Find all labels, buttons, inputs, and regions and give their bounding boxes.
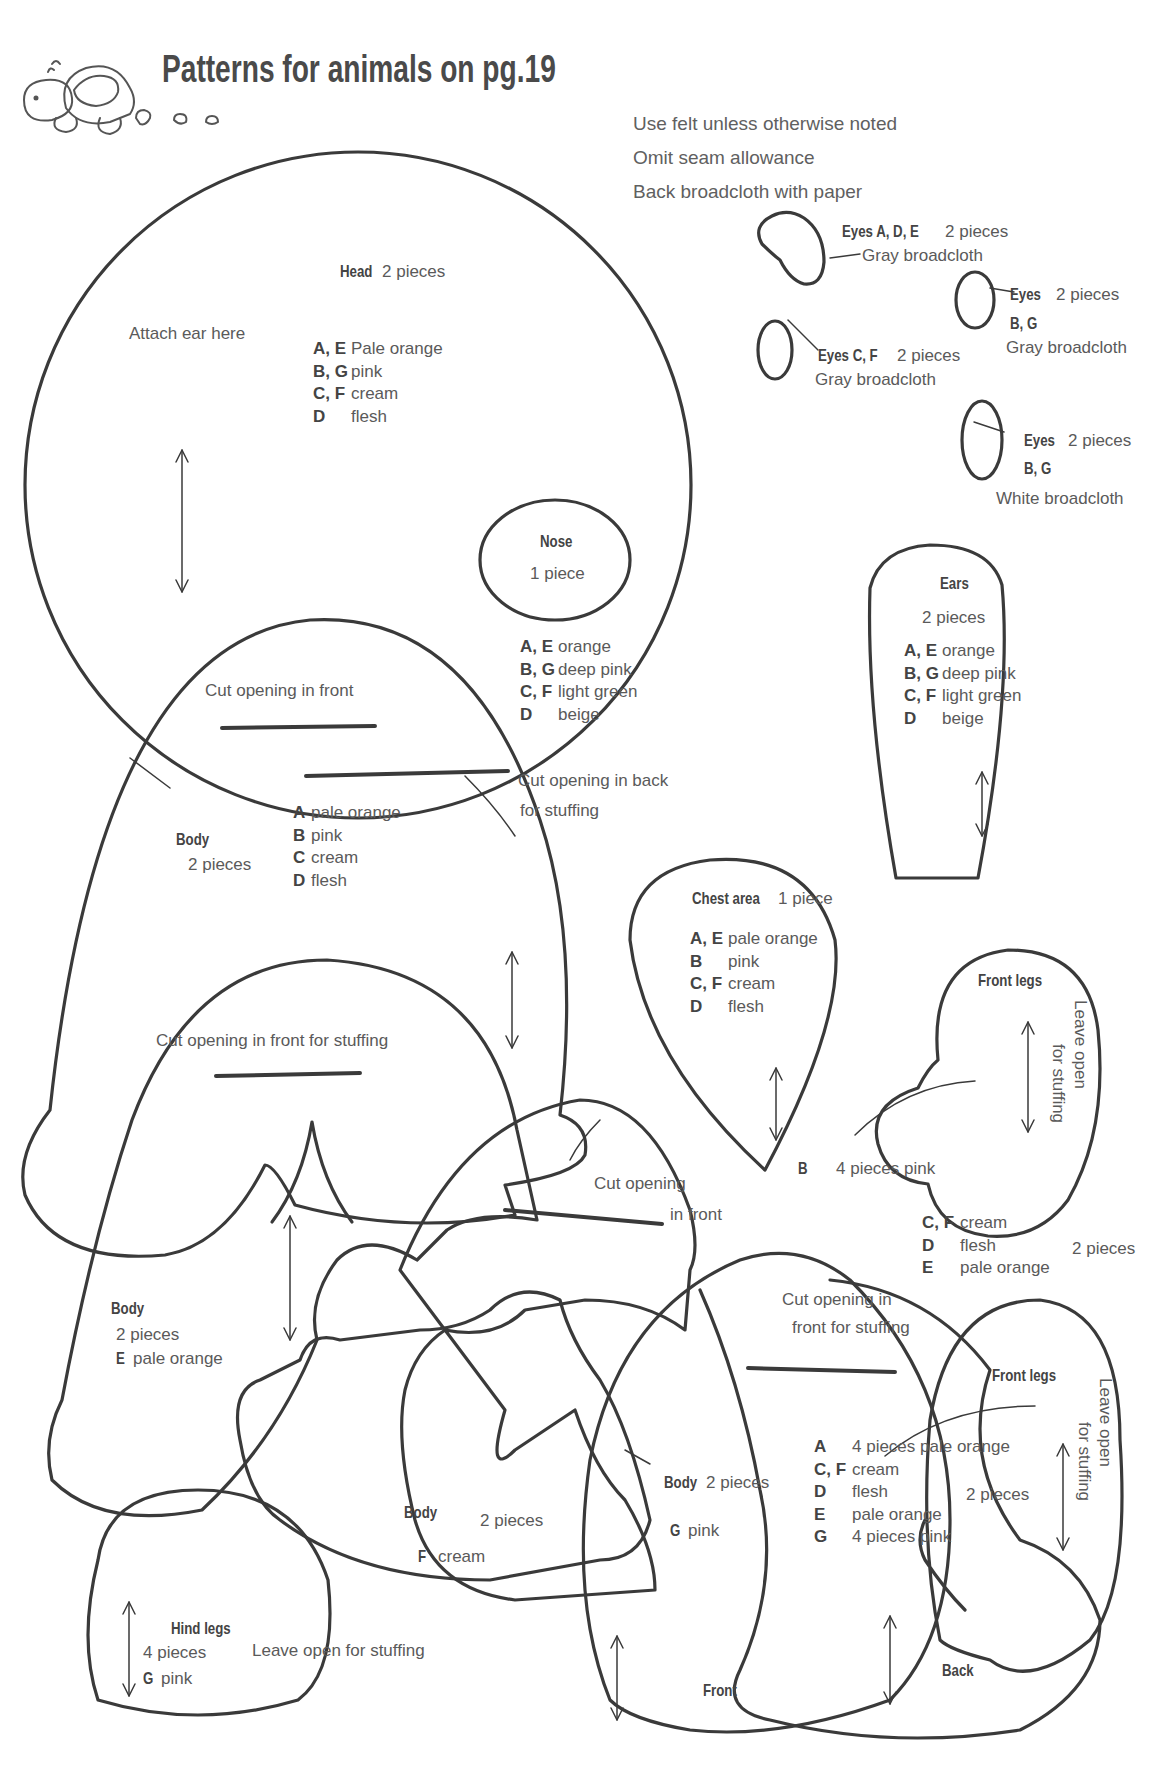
body-e-count: 2 pieces [116, 1324, 179, 1346]
front-legs-1-leave-open-1: Leave open [1068, 1000, 1092, 1089]
chest-title: Chest area [692, 888, 760, 910]
chest-color-list: A, Epale orange Bpink C, Fcream Dflesh [690, 928, 818, 1018]
nose-title: Nose [540, 531, 572, 553]
front-legs-1-leave-open-2: for stuffing [1046, 1044, 1070, 1123]
body-f-count: 2 pieces [480, 1510, 543, 1532]
body-abcd-cut-back-2: for stuffing [520, 800, 599, 822]
note-seam: Omit seam allowance [633, 147, 815, 169]
eyes-cf-count: 2 pieces [897, 345, 960, 367]
body-g-front-label: Front [703, 1680, 737, 1702]
front-legs-2-leave-open-2: for stuffing [1072, 1422, 1096, 1501]
body-f-color: cream [438, 1546, 485, 1568]
ears-color-list: A, Eorange B, Gdeep pink C, Flight green… [904, 640, 1021, 730]
front-legs-1-bracket-count: 2 pieces [1072, 1238, 1135, 1260]
hind-legs-count: 4 pieces [143, 1642, 206, 1664]
front-legs-1-color-list: C, Fcream Dflesh Epale orange [922, 1212, 1050, 1280]
chest-count: 1 piece [778, 888, 833, 910]
page-title: Patterns for animals on pg.19 [162, 48, 556, 91]
body-abcd-color-list: Apale orange Bpink Ccream Dflesh [293, 802, 401, 892]
body-g-cut-note-1: Cut opening in [782, 1289, 892, 1311]
ears-title: Ears [940, 573, 969, 595]
eyes-ade-material: Gray broadcloth [862, 245, 983, 267]
hind-legs-leave-open: Leave open for stuffing [252, 1640, 425, 1662]
body-e-cut-note: Cut opening in front for stuffing [156, 1030, 388, 1052]
eyes-bg-gray-material: Gray broadcloth [1006, 337, 1127, 359]
body-e-dart [272, 1122, 352, 1222]
eye-cf-pattern [758, 321, 792, 379]
body-abcd-count: 2 pieces [188, 854, 251, 876]
front-legs-1-b-text: 4 pieces pink [836, 1158, 935, 1180]
front-legs-2-leave-open-1: Leave open [1093, 1378, 1117, 1467]
hind-legs-pattern [88, 1490, 330, 1715]
eyes-bg-white-material: White broadcloth [996, 488, 1124, 510]
body-g-key: G [670, 1520, 680, 1542]
eyes-bg-white-title: Eyes [1024, 430, 1055, 452]
ears-count: 2 pieces [922, 607, 985, 629]
head-count: 2 pieces [382, 261, 445, 283]
center-cut-opening-2: in front [670, 1204, 722, 1226]
eyes-bg-white-variants: B, G [1024, 458, 1051, 480]
body-g-back-label: Back [942, 1660, 974, 1682]
eyes-cf-title: Eyes C, F [818, 345, 878, 367]
head-color-list: A, EPale orange B, Gpink C, Fcream Dfles… [313, 338, 443, 428]
body-f-outline [238, 1292, 651, 1580]
eyes-ade-count: 2 pieces [945, 221, 1008, 243]
body-f-title: Body [404, 1502, 437, 1524]
hind-legs-color: pink [161, 1668, 192, 1690]
body-g-color: pink [688, 1520, 719, 1542]
body-g-count: 2 pieces [706, 1472, 769, 1494]
note-felt: Use felt unless otherwise noted [633, 113, 897, 135]
eyes-bg-white-count: 2 pieces [1068, 430, 1131, 452]
body-f-key: F [418, 1546, 426, 1568]
front-legs-2-title: Front legs [992, 1365, 1056, 1387]
body-e-color: pale orange [133, 1348, 223, 1370]
eyes-bg-gray-variants: B, G [1010, 313, 1037, 335]
nose-count: 1 piece [530, 563, 585, 585]
body-abcd-cut-front: Cut opening in front [205, 680, 353, 702]
center-cut-opening-1: Cut opening [594, 1173, 686, 1195]
nose-pattern [480, 500, 630, 620]
body-e-key: E [116, 1348, 128, 1370]
attach-ear-note: Attach ear here [129, 323, 245, 345]
body-g-cut-note-2: front for stuffing [792, 1317, 910, 1339]
hind-legs-key: G [143, 1668, 153, 1690]
note-broadcloth: Back broadcloth with paper [633, 181, 862, 203]
hind-legs-title: Hind legs [171, 1618, 231, 1640]
eye-bg-white-pattern [962, 401, 1002, 479]
front-legs-1-b-key: B [798, 1158, 808, 1180]
eyes-bg-gray-count: 2 pieces [1056, 284, 1119, 306]
eyes-bg-gray-title: Eyes [1010, 284, 1041, 306]
front-legs-1-title: Front legs [978, 970, 1042, 992]
body-abcd-title: Body [176, 829, 209, 851]
body-abcd-cut-back-1: Cut opening in back [518, 770, 668, 792]
head-title: Head [340, 261, 372, 283]
eye-ade-pattern [759, 212, 824, 284]
eyes-cf-material: Gray broadcloth [815, 369, 936, 391]
eyes-ade-title: Eyes A, D, E [842, 221, 919, 243]
eye-bg-gray-pattern [956, 272, 994, 328]
body-e-title: Body [111, 1298, 144, 1320]
body-g-title: Body [664, 1472, 697, 1494]
front-legs-2-bracket-count: 2 pieces [966, 1484, 1029, 1506]
nose-color-list: A, Eorange B, Gdeep pink C, Flight green… [520, 636, 637, 726]
